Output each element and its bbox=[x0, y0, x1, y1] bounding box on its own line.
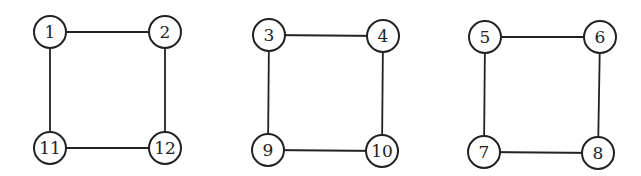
edge-3-9 bbox=[268, 35, 269, 150]
node-label: 4 bbox=[378, 26, 389, 46]
node-6: 6 bbox=[584, 21, 616, 53]
node-10: 10 bbox=[366, 135, 398, 167]
node-12: 12 bbox=[149, 132, 181, 164]
node-4: 4 bbox=[367, 20, 399, 52]
node-2: 2 bbox=[149, 16, 181, 48]
edge-3-4 bbox=[269, 35, 383, 36]
node-label: 10 bbox=[371, 141, 393, 161]
node-label: 8 bbox=[593, 143, 604, 163]
node-label: 2 bbox=[160, 22, 171, 42]
node-3: 3 bbox=[253, 19, 285, 51]
edge-4-10 bbox=[382, 36, 383, 151]
node-label: 1 bbox=[45, 22, 56, 42]
node-9: 9 bbox=[252, 134, 284, 166]
node-8: 8 bbox=[582, 137, 614, 169]
edge-5-7 bbox=[484, 37, 485, 152]
node-label: 12 bbox=[154, 138, 176, 158]
node-label: 5 bbox=[480, 27, 491, 47]
node-label: 6 bbox=[595, 27, 606, 47]
node-label: 9 bbox=[263, 140, 274, 160]
node-5: 5 bbox=[469, 21, 501, 53]
edges-layer bbox=[50, 32, 600, 153]
edge-6-8 bbox=[598, 37, 600, 153]
graph-diagram: 121112349105678 bbox=[0, 0, 641, 176]
node-label: 7 bbox=[479, 142, 490, 162]
nodes-layer: 121112349105678 bbox=[34, 16, 616, 169]
node-11: 11 bbox=[34, 132, 66, 164]
edge-7-8 bbox=[484, 152, 598, 153]
node-7: 7 bbox=[468, 136, 500, 168]
node-1: 1 bbox=[34, 16, 66, 48]
edge-9-10 bbox=[268, 150, 382, 151]
node-label: 11 bbox=[39, 138, 61, 158]
node-label: 3 bbox=[264, 25, 275, 45]
